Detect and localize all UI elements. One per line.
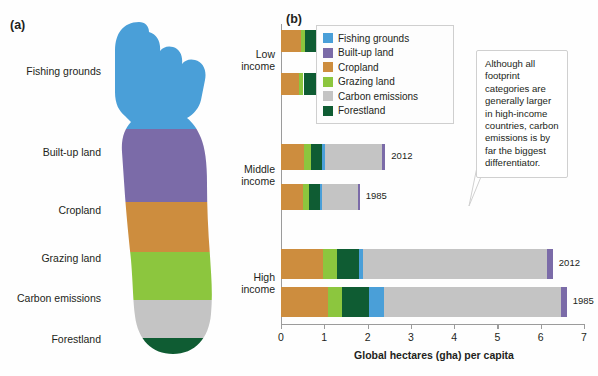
- x-tick-1: [324, 324, 325, 329]
- bar-segment-forestland: [304, 73, 317, 95]
- x-tick-label-7: 7: [581, 331, 587, 343]
- bar-year-label-high-2012: 2012: [559, 257, 580, 268]
- legend-label-forestland: Forestland: [338, 105, 385, 116]
- bar-high-income-1985: [281, 287, 567, 317]
- bar-segment-cropland: [281, 144, 304, 170]
- x-tick-label-5: 5: [495, 331, 501, 343]
- bar-segment-grazing-land: [328, 287, 343, 317]
- bar-segment-forestland: [337, 249, 360, 279]
- bar-segment-grazing-land: [304, 144, 312, 170]
- x-tick-label-6: 6: [538, 331, 544, 343]
- foot-label-grazing-land: Grazing land: [5, 252, 101, 264]
- x-tick-6: [541, 324, 542, 329]
- foot-label-forestland: Forestland: [5, 333, 101, 345]
- legend-label-fishing-grounds: Fishing grounds: [338, 33, 409, 44]
- bar-segment-built-up-land: [561, 287, 566, 317]
- bar-segment-forestland: [309, 184, 320, 210]
- foot-label-fishing-grounds: Fishing grounds: [5, 65, 101, 77]
- x-tick-label-3: 3: [408, 331, 414, 343]
- bar-segment-cropland: [281, 30, 301, 52]
- bar-year-label-middle-1985: 1985: [366, 190, 387, 201]
- legend-label-carbon-emissions: Carbon emissions: [338, 91, 418, 102]
- legend-swatch-built-up-land: [323, 48, 333, 58]
- group-label-low-income-line2: income: [215, 60, 275, 72]
- x-tick-0: [281, 324, 282, 329]
- legend-label-grazing-land: Grazing land: [338, 76, 395, 87]
- bar-segment-cropland: [281, 287, 328, 317]
- group-label-middle-income-line2: income: [215, 175, 275, 187]
- legend-swatch-grazing-land: [323, 77, 333, 87]
- bar-segment-forestland: [311, 144, 322, 170]
- bar-segment-built-up-land: [358, 184, 360, 210]
- bar-segment-forestland: [342, 287, 369, 317]
- x-tick-5: [497, 324, 498, 329]
- chart-legend: Fishing grounds Built-up land Cropland G…: [316, 25, 454, 124]
- group-label-high-income: High income: [215, 271, 275, 295]
- group-label-middle-income: Middle income: [215, 163, 275, 187]
- legend-item-carbon-emissions: Carbon emissions: [323, 89, 447, 104]
- bar-segment-built-up-land: [547, 249, 553, 279]
- bar-year-label-high-1985: 1985: [573, 295, 594, 306]
- bar-chart-panel: (b) 201219852012198520121985 01234567 Gl…: [270, 0, 598, 376]
- legend-item-cropland: Cropland: [323, 60, 447, 75]
- legend-swatch-carbon-emissions: [323, 91, 333, 101]
- group-label-high-income-line2: income: [215, 283, 275, 295]
- foot-band-carbon-emissions: [95, 300, 240, 338]
- bar-segment-built-up-land: [382, 144, 385, 170]
- bar-high-income-2012: [281, 249, 553, 279]
- bar-middle-income-2012: [281, 144, 385, 170]
- bar-segment-fishing-grounds: [369, 287, 384, 317]
- group-label-middle-income-line1: Middle: [215, 163, 275, 175]
- legend-swatch-forestland: [323, 106, 333, 116]
- figure-root: (a) Fishing ground: [0, 0, 598, 376]
- bar-segment-carbon-emissions: [384, 287, 561, 317]
- legend-item-forestland: Forestland: [323, 104, 447, 119]
- foot-label-cropland: Cropland: [5, 204, 101, 216]
- bar-middle-income-1985: [281, 184, 360, 210]
- x-tick-7: [584, 324, 585, 329]
- x-axis-title: Global hectares (gha) per capita: [270, 349, 598, 361]
- bar-segment-cropland: [281, 249, 323, 279]
- legend-label-built-up-land: Built-up land: [338, 47, 394, 58]
- bar-segment-carbon-emissions: [325, 144, 382, 170]
- bar-segment-cropland: [281, 73, 299, 95]
- group-label-low-income: Low income: [215, 48, 275, 72]
- foot-label-built-up-land: Built-up land: [5, 146, 101, 158]
- bar-year-label-middle-2012: 2012: [391, 150, 412, 161]
- x-tick-label-4: 4: [451, 331, 457, 343]
- bar-segment-cropland: [281, 184, 303, 210]
- group-label-low-income-line1: Low: [215, 48, 275, 60]
- x-tick-3: [411, 324, 412, 329]
- foot-band-fishing-grounds: [95, 16, 240, 129]
- x-tick-label-0: 0: [278, 331, 284, 343]
- x-tick-label-1: 1: [321, 331, 327, 343]
- legend-swatch-cropland: [323, 62, 333, 72]
- x-tick-label-2: 2: [365, 331, 371, 343]
- x-tick-4: [454, 324, 455, 329]
- foot-band-forestland: [95, 338, 240, 361]
- bar-segment-carbon-emissions: [322, 184, 358, 210]
- legend-label-cropland: Cropland: [338, 62, 379, 73]
- x-tick-2: [368, 324, 369, 329]
- bar-segment-grazing-land: [323, 249, 336, 279]
- legend-item-fishing-grounds: Fishing grounds: [323, 31, 447, 46]
- group-label-high-income-line1: High: [215, 271, 275, 283]
- foot-band-cropland: [95, 202, 240, 252]
- legend-swatch-fishing-grounds: [323, 33, 333, 43]
- panel-a-letter: (a): [10, 18, 25, 32]
- callout-annotation: Although all footprint categories are ge…: [476, 50, 568, 178]
- x-axis-line: [281, 324, 584, 325]
- legend-item-grazing-land: Grazing land: [323, 75, 447, 90]
- legend-item-built-up-land: Built-up land: [323, 46, 447, 61]
- foot-label-carbon-emissions: Carbon emissions: [1, 292, 101, 304]
- bar-segment-carbon-emissions: [363, 249, 547, 279]
